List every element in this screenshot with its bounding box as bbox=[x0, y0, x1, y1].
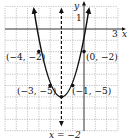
label-point-neg3-neg5: (−3, −5) bbox=[17, 86, 56, 96]
vertex-point bbox=[60, 95, 64, 99]
axis-of-symmetry-label: x = −2 bbox=[49, 130, 81, 139]
x-tick-label: 3 bbox=[112, 29, 118, 39]
x-axis-label: x bbox=[122, 29, 127, 39]
label-point-0-neg2: (0, −2) bbox=[86, 52, 118, 62]
label-point-neg4-neg2: (−4, −2) bbox=[6, 52, 45, 62]
parabola-graph: y x 1 3 (−4, −2) (0, −2) (−3, −5) (−1, −… bbox=[0, 0, 132, 139]
y-axis-label: y bbox=[73, 1, 80, 11]
y-tick-label: 1 bbox=[76, 13, 82, 23]
label-point-neg1-neg5: (−1, −5) bbox=[72, 86, 111, 96]
